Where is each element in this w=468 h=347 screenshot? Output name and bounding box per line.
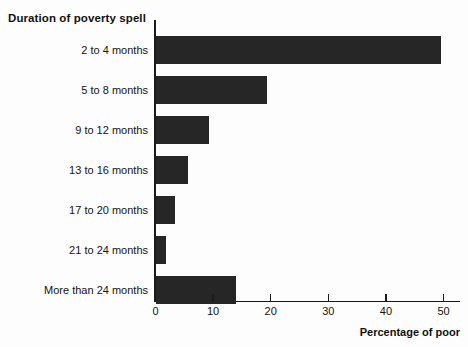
bar-row: 21 to 24 months (0, 236, 468, 264)
bar-row: 17 to 20 months (0, 196, 468, 224)
x-tick-mark (328, 294, 329, 301)
category-label: More than 24 months (44, 276, 148, 304)
bar (156, 236, 167, 264)
x-tick-mark (212, 294, 213, 301)
x-tick-label: 10 (198, 305, 228, 317)
category-label: 2 to 4 months (81, 36, 148, 64)
x-axis-label: Percentage of poor (360, 326, 460, 338)
x-tick-label: 50 (429, 305, 459, 317)
bar-row: 2 to 4 months (0, 36, 468, 64)
bar (156, 76, 268, 104)
x-tick-label: 30 (313, 305, 343, 317)
x-tick-label: 40 (371, 305, 401, 317)
category-label: 13 to 16 months (69, 156, 148, 184)
category-label: 5 to 8 months (81, 76, 148, 104)
bar (156, 156, 189, 184)
category-label: 17 to 20 months (69, 196, 148, 224)
bar-chart: Duration of poverty spell 2 to 4 months5… (0, 0, 468, 347)
bar (156, 116, 210, 144)
bar-row: 5 to 8 months (0, 76, 468, 104)
category-label: 21 to 24 months (69, 236, 148, 264)
x-tick-mark (385, 294, 386, 301)
x-tick-mark (443, 294, 444, 301)
bar (156, 36, 441, 64)
bar-row: More than 24 months (0, 276, 468, 304)
bar (156, 276, 237, 304)
bar-row: 9 to 12 months (0, 116, 468, 144)
x-tick-label: 0 (141, 305, 171, 317)
x-tick-mark (270, 294, 271, 301)
bar-row: 13 to 16 months (0, 156, 468, 184)
x-tick-label: 20 (256, 305, 286, 317)
category-label: 9 to 12 months (75, 116, 148, 144)
bar (156, 196, 175, 224)
